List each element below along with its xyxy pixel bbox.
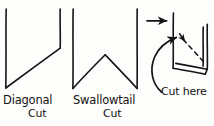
diagonal-cut-edge [6,48,60,88]
dashed-cut-guide [183,39,205,63]
cut-here-detail-shape [173,13,207,74]
swallowtail-notch-left [73,55,105,89]
diagonal-cut-shape [6,9,61,88]
swallowtail-cut-label-line1: Swallowtail [73,95,135,107]
cut-here-label: Cut here [161,86,207,97]
dashed-cut-guide-line [183,39,205,63]
dashed-guide-arrowhead [180,34,185,41]
sketch-figure: Diagonal Cut Swallowtail Cut Cut here [0,0,214,126]
diagonal-cut-label-line1: Diagonal [3,95,52,107]
swallowtail-cut-shape [73,9,137,89]
diagonal-cut-label-line2: Cut [28,108,46,119]
dashed-guide-arrowhead-stroke [180,34,185,41]
swallowtail-notch-right [105,55,137,89]
swallowtail-cut-label-line2: Cut [103,108,121,119]
detail-box-front-bottom [173,68,205,74]
